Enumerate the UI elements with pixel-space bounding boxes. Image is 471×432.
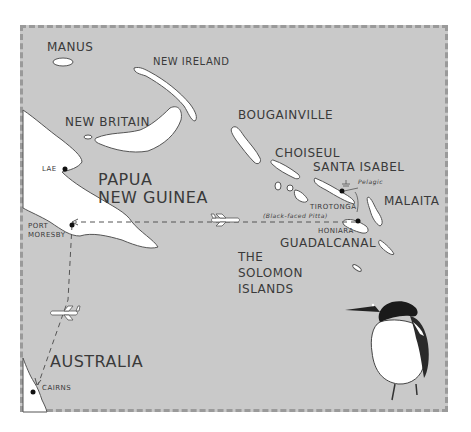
label-black-faced-pitta: (Black-faced Pitta): [263, 212, 328, 219]
label-new-ireland: NEW IRELAND: [153, 56, 229, 67]
port-moresby-dot: [70, 223, 75, 228]
label-santa-isabel: SANTA ISABEL: [313, 160, 405, 174]
cairns-dot: [31, 390, 36, 395]
label-islands: ISLANDS: [238, 282, 294, 296]
label-cairns: CAIRNS: [42, 384, 71, 392]
pelagic-dot: [340, 189, 345, 194]
label-choiseul: CHOISEUL: [275, 146, 340, 160]
label-tirotonga: TIROTONGA: [310, 203, 356, 211]
honiara-dot: [356, 219, 361, 224]
label-lae: LAE: [42, 165, 57, 173]
label-new-britain: NEW BRITAIN: [65, 115, 150, 129]
label-the: THE: [238, 250, 263, 264]
airplane-icon: [211, 214, 240, 226]
label-manus: MANUS: [47, 40, 93, 54]
malaita-island: [367, 197, 382, 226]
new-georgia-island: [275, 182, 281, 190]
bougainville-island: [231, 127, 260, 164]
label-australia: AUSTRALIA: [50, 352, 143, 371]
label-bougainville: BOUGAINVILLE: [238, 108, 333, 122]
label-solomon: SOLOMON: [238, 266, 303, 280]
new-georgia-island: [287, 185, 293, 191]
manus-island: [53, 58, 73, 66]
label-port: PORT: [28, 222, 48, 230]
makira-island: [379, 240, 394, 255]
label-malaita: MALAITA: [384, 194, 439, 208]
choiseul-island: [271, 160, 300, 179]
arrow-icon: [35, 378, 41, 385]
bird-illustration: [345, 301, 429, 400]
label-honiara: HONIARA: [318, 227, 354, 235]
lae-dot: [63, 167, 68, 172]
small-island: [84, 135, 92, 139]
label-new-guinea: NEW GUINEA: [98, 188, 208, 207]
new-georgia-island: [294, 190, 308, 202]
label-papua: PAPUA: [98, 170, 152, 189]
label-pelagic: Pelagic: [358, 178, 383, 185]
santa-isabel-island: [314, 178, 354, 204]
small-island: [352, 263, 362, 272]
label-moresby: MORESBY: [28, 231, 65, 239]
label-guadalcanal: GUADALCANAL: [280, 236, 376, 250]
new-britain-island: [95, 107, 181, 152]
